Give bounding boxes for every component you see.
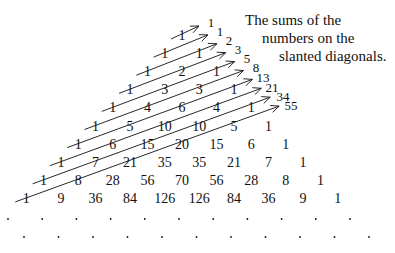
triangle-entry: 1	[144, 64, 151, 79]
diagonal-sum-label: 1	[217, 24, 224, 39]
triangle-entry: 35	[192, 155, 206, 170]
caption-line-2: numbers on the	[262, 29, 354, 47]
triangle-entry: 1	[282, 137, 289, 152]
triangle-entry: 8	[282, 173, 289, 188]
continuation-dot	[212, 218, 214, 220]
continuation-dot	[23, 236, 25, 238]
diagonal-arrow	[119, 52, 226, 93]
triangle-entry: 28	[244, 173, 258, 188]
triangle-entry: 9	[300, 191, 307, 206]
triangle-entry: 28	[106, 173, 120, 188]
triangle-entry: 15	[210, 137, 224, 152]
triangle-entry: 3	[196, 82, 203, 97]
continuation-dot	[110, 218, 112, 220]
continuation-dot	[127, 236, 129, 238]
triangle-entry: 8	[75, 173, 82, 188]
triangle-entry: 5	[230, 119, 237, 134]
triangle-entry: 15	[140, 137, 154, 152]
triangle-entry: 20	[175, 137, 189, 152]
triangle-entry: 1	[179, 28, 186, 43]
diagonal-sum-label: 1	[208, 15, 215, 30]
triangle-entry: 1	[57, 155, 64, 170]
triangle-entry: 10	[192, 119, 206, 134]
triangle-entry: 56	[140, 173, 154, 188]
triangle-entry: 84	[123, 191, 137, 206]
continuation-dot	[349, 218, 351, 220]
triangle-entry: 1	[248, 100, 255, 115]
triangle-entry: 7	[265, 155, 272, 170]
triangle-entry: 9	[57, 191, 64, 206]
triangle-entry: 126	[189, 191, 210, 206]
caption-line-3: slanted diagonals.	[279, 47, 386, 65]
pascal-triangle-diagram: 1111211331146411510105116152015611721353…	[0, 0, 395, 253]
continuation-dot	[265, 236, 267, 238]
triangle-entry: 1	[317, 173, 324, 188]
continuation-dot	[92, 236, 94, 238]
triangle-entry: 1	[213, 64, 220, 79]
continuation-dot	[7, 218, 9, 220]
triangle-entry: 1	[23, 191, 30, 206]
triangle-entry: 10	[158, 119, 172, 134]
triangle-entry: 1	[40, 173, 47, 188]
triangle-entry: 1	[75, 137, 82, 152]
continuation-dot	[58, 236, 60, 238]
triangle-entry: 36	[262, 191, 276, 206]
continuation-dot	[196, 236, 198, 238]
triangle-entry: 3	[161, 82, 168, 97]
triangle-entry: 1	[230, 82, 237, 97]
continuation-dot	[368, 236, 370, 238]
triangle-entry: 1	[300, 155, 307, 170]
diagonal-sum-label: 5	[244, 51, 251, 66]
triangle-entry: 6	[109, 137, 116, 152]
triangle-entry: 21	[227, 155, 241, 170]
triangle-entry: 4	[213, 100, 220, 115]
triangle-entry: 6	[248, 137, 255, 152]
continuation-dot	[161, 236, 163, 238]
continuation-dot	[334, 236, 336, 238]
triangle-entry: 1	[127, 82, 134, 97]
diagonal-sum-label: 3	[235, 42, 242, 57]
triangle-entry: 84	[227, 191, 241, 206]
triangle-entry: 126	[154, 191, 175, 206]
continuation-dot	[178, 218, 180, 220]
triangle-entry: 4	[144, 100, 151, 115]
triangle-entry: 36	[89, 191, 103, 206]
continuation-dot	[76, 218, 78, 220]
triangle-entry: 1	[334, 191, 341, 206]
triangle-entry: 1	[92, 119, 99, 134]
triangle-entry: 1	[196, 46, 203, 61]
continuation-dots	[7, 218, 370, 238]
triangle-entry: 1	[161, 46, 168, 61]
diagonal-sum-label: 55	[285, 98, 298, 113]
continuation-dot	[281, 218, 283, 220]
triangle-entry: 6	[179, 100, 186, 115]
triangle-entry: 56	[210, 173, 224, 188]
continuation-dot	[247, 218, 249, 220]
triangle-entry: 1	[109, 100, 116, 115]
continuation-dot	[41, 218, 43, 220]
continuation-dot	[144, 218, 146, 220]
triangle-entry: 2	[179, 64, 186, 79]
triangle-entry: 70	[175, 173, 189, 188]
diagonal-sum-label: 2	[226, 33, 233, 48]
continuation-dot	[299, 236, 301, 238]
triangle-entry: 1	[265, 119, 272, 134]
continuation-dot	[230, 236, 232, 238]
triangle-entry: 5	[127, 119, 134, 134]
caption-line-1: The sums of the	[245, 11, 341, 29]
triangle-entry: 21	[123, 155, 137, 170]
triangle-entry: 35	[158, 155, 172, 170]
continuation-dot	[315, 218, 317, 220]
triangle-entry: 7	[92, 155, 99, 170]
